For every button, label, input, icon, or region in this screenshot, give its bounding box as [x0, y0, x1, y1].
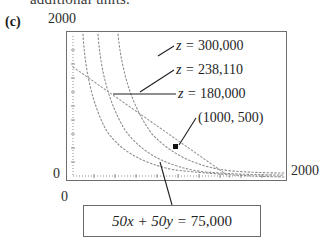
- point-marker-1000-500: [173, 144, 178, 149]
- point-label-1000-500: (1000, 500): [198, 110, 263, 126]
- curve-z-300000: [118, 34, 285, 173]
- x-axis-ticks: [94, 174, 262, 178]
- constraint-callout-box: 50x + 50y = 75,000: [83, 205, 261, 237]
- series-group: [73, 34, 285, 177]
- constraint-equation-rhs: 75,000: [191, 213, 232, 229]
- curve-label-z-180000-prefix: z =: [178, 86, 200, 101]
- curve-label-z-300000: z = 300,000: [176, 38, 243, 54]
- curve-label-z-300000-prefix: z =: [176, 38, 198, 53]
- leader-point-1000-500: [179, 118, 196, 145]
- curve-label-z-180000-value: 180,000: [200, 86, 246, 101]
- curve-label-z-300000-value: 300,000: [198, 38, 244, 53]
- axis-lines: [71, 36, 283, 178]
- curve-label-z-238110-prefix: z =: [176, 62, 198, 77]
- curve-label-z-238110: z = 238,110: [176, 62, 243, 78]
- constraint-equation: 50x + 50y = 75,000: [112, 213, 232, 230]
- curve-label-z-180000: z = 180,000: [178, 86, 245, 102]
- leader-z-238110: [140, 70, 174, 92]
- curve-label-z-238110-value: 238,110: [198, 62, 243, 77]
- constraint-equation-lhs: 50x + 50y =: [112, 213, 191, 229]
- figure-panel-c: additional units. (c) 2000 0 0 2000: [0, 0, 334, 245]
- leader-z-300000: [158, 46, 174, 56]
